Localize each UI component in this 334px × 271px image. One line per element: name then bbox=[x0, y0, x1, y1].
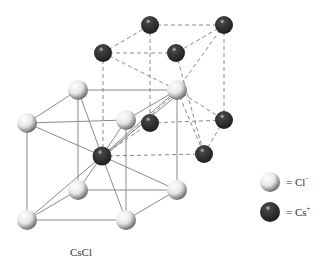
legend-cl-sphere-icon bbox=[260, 172, 280, 192]
cl-atom bbox=[167, 180, 187, 200]
cl-atom bbox=[68, 180, 88, 200]
cl-atom bbox=[17, 113, 37, 133]
cs-atom bbox=[141, 114, 159, 132]
cl-atom bbox=[116, 110, 136, 130]
cs-atom bbox=[215, 16, 233, 34]
cs-atom bbox=[167, 44, 185, 62]
cs-center-atom bbox=[93, 147, 112, 166]
cl-atom bbox=[17, 210, 37, 230]
legend-cs-label: = Cs+ bbox=[286, 205, 311, 218]
cs-atom bbox=[215, 111, 233, 129]
cl-atoms bbox=[17, 80, 187, 200]
legend-cs-sphere-icon bbox=[260, 202, 280, 222]
cl-atom bbox=[68, 80, 88, 100]
diagram-caption: CsCl bbox=[70, 246, 92, 258]
cscl-crystal-diagram bbox=[0, 0, 334, 271]
cl-atom bbox=[167, 80, 187, 100]
cs-atom bbox=[94, 44, 112, 62]
cs-atom bbox=[195, 145, 213, 163]
cs-atom bbox=[141, 16, 159, 34]
legend-cl-label: = Cl− bbox=[286, 175, 309, 188]
cl-atom bbox=[116, 210, 136, 230]
